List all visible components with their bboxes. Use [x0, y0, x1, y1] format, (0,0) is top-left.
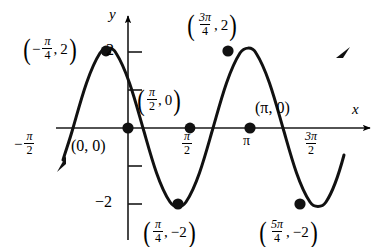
- paren-close: ): [174, 85, 182, 115]
- y-tick-label-neg2: −2: [95, 193, 112, 211]
- fraction-pi-over-2: π 2: [182, 130, 192, 156]
- value-neg-two: −2: [171, 225, 187, 240]
- point-label-max-left: ( − π 4 , 2 ): [22, 34, 78, 64]
- point-zero-pi: [244, 122, 255, 133]
- paren-close: ): [230, 10, 238, 40]
- fraction-3pi-over-4: 3π 4: [197, 11, 213, 37]
- y-tick-label-2: 2: [106, 41, 114, 59]
- comma: ,: [214, 18, 218, 33]
- fraction-pi-over-4: π 4: [153, 218, 163, 244]
- point-label-max-right: ( 3π 4 , 2 ): [186, 10, 238, 40]
- paren-open: (: [23, 34, 31, 64]
- fraction-pi-over-2: π 2: [147, 86, 157, 112]
- paren-open: (: [259, 217, 267, 247]
- value-zero: 0: [165, 93, 173, 108]
- x-tick-label-neg-half-pi: − π 2: [14, 131, 35, 157]
- point-label-origin: (0, 0): [71, 138, 106, 154]
- minus-sign: −: [32, 42, 40, 57]
- value-neg-two: −2: [293, 225, 309, 240]
- paren-open: (: [137, 85, 145, 115]
- point-label-min-left: ( π 4 , −2 ): [142, 217, 197, 247]
- curve-arrow-right: [336, 47, 350, 58]
- comma: ,: [158, 93, 162, 108]
- pi-glyph: π: [243, 134, 250, 148]
- paren-close: ): [188, 217, 196, 247]
- comma: ,: [164, 225, 168, 240]
- figure-canvas: y x 2 −2 − π 2 π 2 π 3π 2 ( − π 4 ,: [0, 0, 379, 247]
- comma: ,: [286, 225, 290, 240]
- x-tick-label-half-pi: π 2: [181, 131, 193, 157]
- point-max-right: [222, 45, 233, 56]
- point-min-left: [172, 198, 183, 209]
- fraction-5pi-over-4: 5π 4: [269, 218, 285, 244]
- pi-zero-text: (π, 0): [255, 100, 290, 116]
- x-tick-label-pi: π: [243, 134, 250, 148]
- paren-open: (: [187, 10, 195, 40]
- point-min-right: [294, 198, 305, 209]
- origin-text: (0, 0): [71, 138, 106, 154]
- paren-close: ): [69, 34, 77, 64]
- comma: ,: [53, 42, 57, 57]
- point-origin: [122, 122, 133, 133]
- fraction-pi-over-4: π 4: [42, 35, 52, 61]
- paren-open: (: [143, 217, 151, 247]
- point-label-min-right: ( 5π 4 , −2 ): [258, 217, 319, 247]
- value-two: 2: [221, 18, 229, 33]
- fraction-3pi-over-2: 3π 2: [303, 130, 319, 156]
- point-label-zero-half-pi: ( π 2 , 0 ): [136, 85, 182, 115]
- value-two: 2: [60, 42, 68, 57]
- minus-sign: −: [14, 137, 22, 152]
- point-label-zero-pi: (π, 0): [255, 100, 290, 116]
- fraction-pi-over-2: π 2: [24, 130, 34, 156]
- x-tick-label-three-half-pi: 3π 2: [302, 131, 320, 157]
- y-axis-label: y: [109, 6, 116, 23]
- paren-close: ): [310, 217, 318, 247]
- x-axis-label: x: [352, 101, 359, 118]
